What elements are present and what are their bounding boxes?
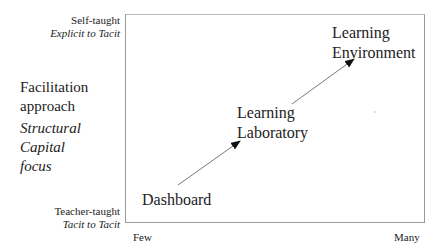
arrows-layer	[0, 0, 444, 252]
stray-dot	[374, 111, 375, 112]
arrow-dashboard-to-laboratory	[178, 141, 240, 185]
arrow-laboratory-to-environment	[292, 59, 354, 104]
